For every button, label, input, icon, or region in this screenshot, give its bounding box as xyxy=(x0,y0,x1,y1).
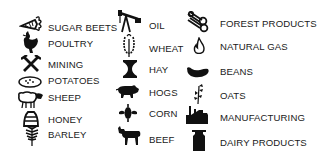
legend-label: POULTRY xyxy=(48,38,93,49)
legend-label: HOGS xyxy=(149,87,178,98)
barley-icon xyxy=(24,125,40,147)
hogs-icon xyxy=(116,84,140,100)
legend-label: BARLEY xyxy=(48,129,86,140)
legend-label: BEANS xyxy=(220,66,253,77)
legend-label: FOREST PRODUCTS xyxy=(220,18,317,29)
mining-icon xyxy=(21,55,41,73)
map-legend: SUGAR BEETS POULTRY MINING POTATOES SHEE… xyxy=(0,0,333,166)
legend-label: POTATOES xyxy=(48,75,99,86)
legend-label: OATS xyxy=(220,90,246,101)
wheat-icon xyxy=(121,34,137,58)
legend-label: MANUFACTURING xyxy=(220,112,305,123)
legend-label: WHEAT xyxy=(149,43,183,54)
beef-icon xyxy=(117,126,141,146)
potatoes-icon xyxy=(18,76,42,88)
hay-icon xyxy=(123,60,137,78)
natural-gas-icon xyxy=(193,37,205,54)
oats-icon xyxy=(193,84,205,104)
manufacturing-icon xyxy=(185,104,209,124)
dairy-products-icon xyxy=(191,129,207,151)
legend-label: SHEEP xyxy=(48,92,81,103)
poultry-icon xyxy=(21,31,41,55)
legend-label: HONEY xyxy=(48,114,83,125)
legend-label: OIL xyxy=(149,20,165,31)
legend-label: HAY xyxy=(149,64,168,75)
legend-label: MINING xyxy=(48,59,83,70)
legend-label: SUGAR BEETS xyxy=(48,22,117,33)
forest-products-icon xyxy=(186,11,210,33)
legend-label: CORN xyxy=(149,108,178,119)
legend-label: DAIRY PRODUCTS xyxy=(220,137,307,148)
sheep-icon xyxy=(16,91,44,109)
oil-pump-icon xyxy=(116,9,142,33)
legend-label: BEEF xyxy=(149,134,174,145)
corn-icon xyxy=(118,104,138,122)
legend-label: NATURAL GAS xyxy=(220,41,288,52)
beans-icon xyxy=(186,66,210,78)
